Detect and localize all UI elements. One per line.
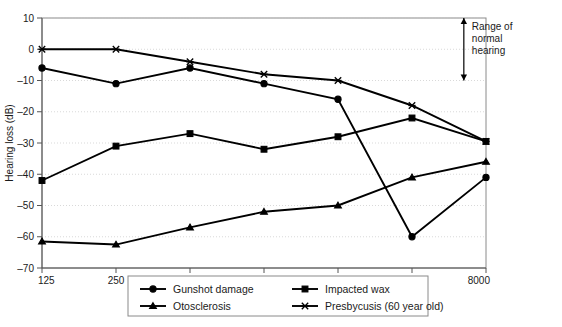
marker-circle bbox=[483, 174, 489, 180]
y-tick-label: –50 bbox=[17, 200, 34, 211]
marker-square bbox=[187, 131, 193, 137]
marker-square bbox=[302, 286, 308, 292]
marker-circle bbox=[335, 96, 341, 102]
marker-square bbox=[409, 115, 415, 121]
y-tick-label: –70 bbox=[17, 263, 34, 274]
marker-circle bbox=[409, 234, 415, 240]
marker-circle bbox=[187, 65, 193, 71]
legend-item-label: Presbycusis (60 year old) bbox=[325, 300, 443, 312]
x-tick-label: 8000 bbox=[468, 275, 491, 286]
annotation-arrowhead-down bbox=[461, 75, 467, 81]
marker-circle bbox=[113, 81, 119, 87]
series-impacted-wax bbox=[39, 115, 489, 183]
marker-square bbox=[335, 134, 341, 140]
y-axis-title: Hearing loss (dB) bbox=[4, 104, 15, 181]
annotation-text-line: hearing bbox=[472, 45, 505, 56]
x-tick-label: 250 bbox=[108, 275, 125, 286]
legend-item-label: Otosclerosis bbox=[173, 300, 231, 312]
marker-circle bbox=[39, 65, 45, 71]
annotation-arrowhead-up bbox=[461, 18, 467, 24]
hearing-loss-line-chart: 100–10–20–30–40–50–60–701252505001000200… bbox=[0, 0, 562, 327]
y-tick-label: –60 bbox=[17, 231, 34, 242]
annotation-text-line: normal bbox=[472, 33, 503, 44]
y-tick-label: –10 bbox=[17, 75, 34, 86]
marker-circle bbox=[150, 286, 156, 292]
marker-square bbox=[39, 178, 45, 184]
marker-square bbox=[113, 143, 119, 149]
marker-circle bbox=[261, 81, 267, 87]
y-tick-label: 0 bbox=[28, 44, 34, 55]
legend-item-label: Impacted wax bbox=[325, 283, 391, 295]
y-tick-label: –30 bbox=[17, 138, 34, 149]
series-polyline bbox=[42, 49, 486, 141]
y-tick-label: 10 bbox=[23, 13, 35, 24]
figure-container: 100–10–20–30–40–50–60–701252505001000200… bbox=[0, 0, 562, 327]
series-presbycusis-60-year-old bbox=[38, 46, 489, 145]
figure-caption bbox=[6, 318, 426, 327]
x-tick-label: 125 bbox=[38, 275, 55, 286]
y-tick-label: –40 bbox=[17, 169, 34, 180]
series-otosclerosis bbox=[39, 158, 490, 247]
marker-square bbox=[261, 146, 267, 152]
legend-item-label: Gunshot damage bbox=[173, 283, 254, 295]
legend: Gunshot damageImpacted waxOtosclerosisPr… bbox=[128, 276, 443, 316]
annotation-text-line: Range of bbox=[472, 21, 513, 32]
y-tick-label: –20 bbox=[17, 106, 34, 117]
